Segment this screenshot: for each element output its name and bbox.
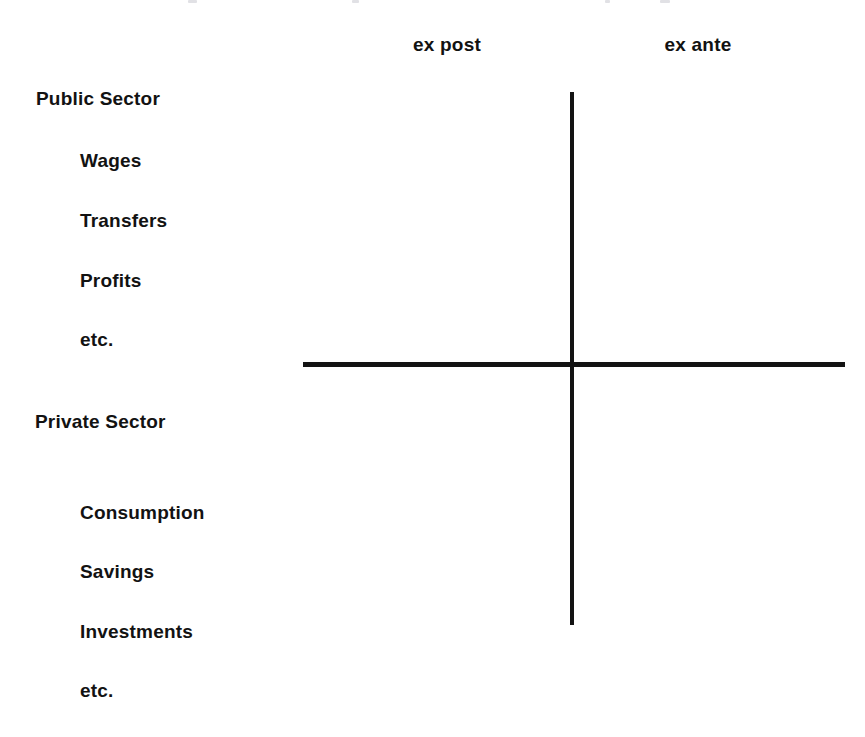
row-label-etc: etc. bbox=[80, 681, 114, 700]
row-label-wages: Wages bbox=[80, 151, 142, 170]
scan-artifact bbox=[605, 0, 610, 3]
scan-artifact bbox=[660, 0, 670, 3]
row-label-consumption: Consumption bbox=[80, 503, 205, 522]
row-label-public-sector: Public Sector bbox=[36, 89, 160, 108]
row-label-profits: Profits bbox=[80, 271, 142, 290]
column-header-ex-ante: ex ante bbox=[598, 34, 798, 56]
row-label-private-sector: Private Sector bbox=[35, 412, 166, 431]
figure-canvas: ex post ex ante Public SectorWagesTransf… bbox=[0, 0, 865, 737]
row-label-savings: Savings bbox=[80, 562, 154, 581]
scan-artifact bbox=[352, 0, 359, 3]
row-label-transfers: Transfers bbox=[80, 211, 167, 230]
vertical-axis-line bbox=[570, 92, 574, 625]
scan-artifact bbox=[188, 0, 197, 3]
row-label-etc: etc. bbox=[80, 330, 114, 349]
row-label-investments: Investments bbox=[80, 622, 193, 641]
column-header-ex-post: ex post bbox=[347, 34, 547, 56]
horizontal-axis-line bbox=[303, 362, 845, 367]
